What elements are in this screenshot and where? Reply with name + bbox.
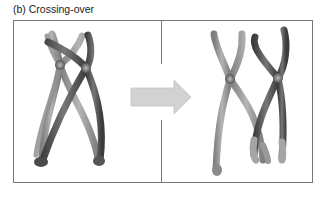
diagram-artwork	[0, 0, 328, 198]
centromere-icon	[55, 60, 65, 70]
chromosome-pair-before	[34, 34, 105, 167]
arrow-right-icon	[131, 80, 191, 114]
centromere-icon	[273, 73, 283, 83]
centromere-icon	[81, 63, 91, 73]
centromere-icon	[225, 74, 235, 84]
chromosome-pair-after	[212, 30, 286, 176]
